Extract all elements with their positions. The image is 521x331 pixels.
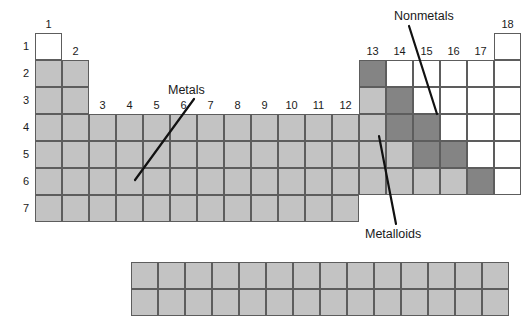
- element-cell-metal-p4-g11: [305, 114, 332, 141]
- element-cell-metal-p7-g6: [170, 195, 197, 222]
- element-cell-metalloid-p6-g17: [467, 168, 494, 195]
- period-number-3: 3: [15, 95, 29, 106]
- group-number-12: 12: [332, 100, 359, 111]
- group-number-10: 10: [278, 100, 305, 111]
- element-cell-metal-p3-g1: [35, 87, 62, 114]
- f-block-cell-metal-r1-c9: [347, 262, 374, 289]
- f-block-cell-metal-r2-c10: [374, 289, 401, 316]
- element-cell-metal-p6-g16: [440, 168, 467, 195]
- group-number-15: 15: [413, 46, 440, 57]
- element-cell-metal-p4-g5: [143, 114, 170, 141]
- element-cell-nonmetal-p4-g16: [440, 114, 467, 141]
- element-cell-metal-p2-g1: [35, 60, 62, 87]
- element-cell-nonmetal-p2-g17: [467, 60, 494, 87]
- group-number-7: 7: [197, 100, 224, 111]
- element-cell-metalloid-p5-g15: [413, 141, 440, 168]
- f-block-cell-metal-r2-c8: [320, 289, 347, 316]
- element-cell-metal-p5-g5: [143, 141, 170, 168]
- element-cell-metal-p5-g4: [116, 141, 143, 168]
- f-block-cell-metal-r1-c11: [401, 262, 428, 289]
- element-cell-metal-p4-g12: [332, 114, 359, 141]
- element-cell-metal-p4-g9: [251, 114, 278, 141]
- f-block-cell-metal-r2-c3: [185, 289, 212, 316]
- element-cell-metal-p4-g2: [62, 114, 89, 141]
- element-cell-nonmetal-p3-g18: [494, 87, 521, 114]
- group-number-11: 11: [305, 100, 332, 111]
- group-number-4: 4: [116, 100, 143, 111]
- element-cell-metal-p6-g15: [413, 168, 440, 195]
- element-cell-metal-p5-g9: [251, 141, 278, 168]
- f-block-cell-metal-r1-c2: [158, 262, 185, 289]
- element-cell-metal-p5-g8: [224, 141, 251, 168]
- element-cell-metal-p6-g12: [332, 168, 359, 195]
- element-cell-metal-p7-g11: [305, 195, 332, 222]
- element-cell-metal-p6-g3: [89, 168, 116, 195]
- element-cell-nonmetal-p3-g16: [440, 87, 467, 114]
- element-cell-metal-p4-g3: [89, 114, 116, 141]
- group-number-5: 5: [143, 100, 170, 111]
- element-cell-metal-p5-g2: [62, 141, 89, 168]
- element-cell-metal-p5-g7: [197, 141, 224, 168]
- f-block-cell-metal-r2-c1: [131, 289, 158, 316]
- element-cell-nonmetal-p3-g15: [413, 87, 440, 114]
- group-number-17: 17: [467, 46, 494, 57]
- element-cell-metal-p5-g14: [386, 141, 413, 168]
- element-cell-metal-p6-g2: [62, 168, 89, 195]
- element-cell-metal-p7-g12: [332, 195, 359, 222]
- group-number-8: 8: [224, 100, 251, 111]
- f-block-cell-metal-r1-c1: [131, 262, 158, 289]
- f-block-cell-metal-r1-c6: [266, 262, 293, 289]
- element-cell-metal-p6-g4: [116, 168, 143, 195]
- element-cell-metal-p7-g3: [89, 195, 116, 222]
- element-cell-nonmetal-p6-g18: [494, 168, 521, 195]
- element-cell-metal-p4-g13: [359, 114, 386, 141]
- f-block-cell-metal-r2-c12: [428, 289, 455, 316]
- element-cell-metal-p4-g6: [170, 114, 197, 141]
- element-cell-metal-p5-g10: [278, 141, 305, 168]
- element-cell-metal-p4-g8: [224, 114, 251, 141]
- element-cell-metal-p6-g1: [35, 168, 62, 195]
- element-cell-nonmetal-p4-g17: [467, 114, 494, 141]
- period-number-2: 2: [15, 68, 29, 79]
- element-cell-metalloid-p4-g14: [386, 114, 413, 141]
- callout-label-nonmetals: Nonmetals: [394, 10, 454, 23]
- element-cell-metalloid-p3-g14: [386, 87, 413, 114]
- f-block-cell-metal-r1-c10: [374, 262, 401, 289]
- element-cell-nonmetal-p3-g17: [467, 87, 494, 114]
- element-cell-nonmetal-p2-g15: [413, 60, 440, 87]
- element-cell-metal-p7-g2: [62, 195, 89, 222]
- element-cell-nonmetal-p1-g1: [35, 33, 62, 60]
- f-block-cell-metal-r2-c6: [266, 289, 293, 316]
- period-number-1: 1: [15, 41, 29, 52]
- f-block-cell-metal-r2-c5: [239, 289, 266, 316]
- callout-label-metals: Metals: [168, 84, 205, 97]
- element-cell-metal-p7-g10: [278, 195, 305, 222]
- element-cell-nonmetal-p1-g18: [494, 33, 521, 60]
- f-block-cell-metal-r1-c4: [212, 262, 239, 289]
- f-block-cell-metal-r1-c14: [482, 262, 509, 289]
- element-cell-metal-p6-g10: [278, 168, 305, 195]
- element-cell-metal-p6-g5: [143, 168, 170, 195]
- f-block-cell-metal-r1-c12: [428, 262, 455, 289]
- element-cell-metalloid-p2-g13: [359, 60, 386, 87]
- group-number-1: 1: [35, 19, 62, 30]
- element-cell-metal-p7-g8: [224, 195, 251, 222]
- f-block-cell-metal-r1-c7: [293, 262, 320, 289]
- element-cell-metal-p6-g6: [170, 168, 197, 195]
- element-cell-metal-p4-g4: [116, 114, 143, 141]
- group-number-9: 9: [251, 100, 278, 111]
- f-block-cell-metal-r2-c7: [293, 289, 320, 316]
- element-cell-metal-p4-g7: [197, 114, 224, 141]
- group-number-14: 14: [386, 46, 413, 57]
- period-number-4: 4: [15, 122, 29, 133]
- f-block-cell-metal-r2-c2: [158, 289, 185, 316]
- f-block-cell-metal-r2-c9: [347, 289, 374, 316]
- f-block-cell-metal-r2-c13: [455, 289, 482, 316]
- group-number-2: 2: [62, 46, 89, 57]
- element-cell-metal-p5-g13: [359, 141, 386, 168]
- element-cell-metal-p6-g8: [224, 168, 251, 195]
- element-cell-metal-p6-g7: [197, 168, 224, 195]
- element-cell-metal-p4-g10: [278, 114, 305, 141]
- callout-label-metalloids: Metalloids: [365, 228, 421, 241]
